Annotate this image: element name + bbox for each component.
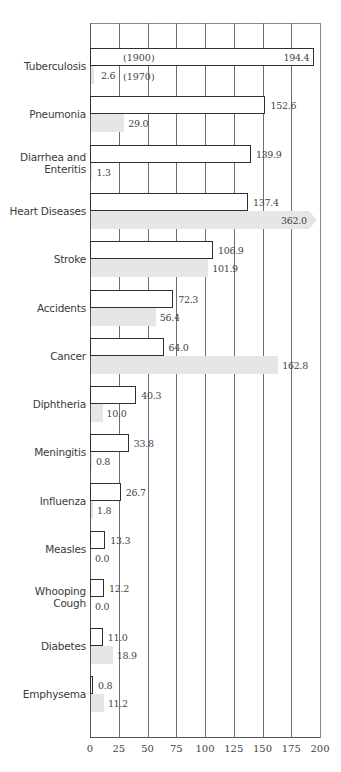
- category-label-line: Influenza: [40, 495, 86, 507]
- bar-1970: [91, 308, 156, 326]
- bar-1970: [91, 452, 92, 470]
- category-label: Diphtheria: [33, 398, 86, 410]
- bar-1900: [90, 193, 248, 211]
- value-label-1970: 18.9: [117, 650, 137, 661]
- value-label-1900: 194.4: [284, 52, 310, 63]
- bar-1900: [90, 483, 121, 501]
- bar-1900: [90, 338, 164, 356]
- legend-1900-label: (1900): [123, 52, 155, 63]
- bar-1970: [91, 501, 93, 519]
- x-tick-label: 100: [195, 743, 214, 754]
- bar-1900: [90, 96, 265, 114]
- bar-1900: [90, 579, 104, 597]
- value-label-1970: 1.8: [97, 505, 111, 516]
- value-label-1900: 72.3: [178, 294, 198, 305]
- bar-1970: [91, 356, 278, 374]
- x-tick-label: 75: [170, 743, 183, 754]
- gridline: [176, 23, 177, 738]
- category-label: Accidents: [37, 302, 86, 314]
- value-label-1900: 33.8: [134, 438, 154, 449]
- category-label-line: Enteritis: [20, 163, 86, 175]
- category-label: Meningitis: [34, 446, 86, 458]
- category-label-line: Pneumonia: [29, 108, 86, 120]
- legend-1970-label: (1970): [123, 71, 155, 82]
- category-label-line: Cough: [35, 597, 86, 609]
- x-tick-label: 150: [253, 743, 272, 754]
- bar-1900: [90, 386, 136, 404]
- value-label-1900: 152.6: [270, 100, 296, 111]
- category-label-line: Heart Diseases: [9, 205, 86, 217]
- gridline: [148, 23, 149, 738]
- category-label-line: Diphtheria: [33, 398, 86, 410]
- value-label-1900: 26.7: [126, 487, 146, 498]
- bar-1900: [90, 145, 251, 163]
- bar-1900: [90, 531, 105, 549]
- category-label-line: Cancer: [50, 350, 86, 362]
- bar-1970: [91, 646, 113, 664]
- bar-chart: 194.42.6152.629.0139.91.3137.4362.0106.9…: [0, 0, 341, 772]
- category-label-line: Measles: [45, 543, 86, 555]
- value-label-1970: 10.0: [107, 408, 127, 419]
- bar-1900: [90, 241, 213, 259]
- category-label: Heart Diseases: [9, 205, 86, 217]
- value-label-1970: 2.6: [101, 70, 115, 81]
- category-label-line: Tuberculosis: [24, 60, 86, 72]
- category-label-line: Whooping: [35, 585, 86, 597]
- bar-1900: [90, 676, 93, 694]
- value-label-1900: 64.0: [169, 342, 189, 353]
- category-label: Emphysema: [23, 688, 86, 700]
- bar-1900: [90, 290, 173, 308]
- gridline: [205, 23, 206, 738]
- value-label-1970: 0.0: [95, 601, 109, 612]
- value-label-1970: 1.3: [96, 167, 110, 178]
- value-label-1970: 29.0: [128, 118, 148, 129]
- category-label-line: Meningitis: [34, 446, 86, 458]
- value-label-1900: 0.8: [98, 680, 112, 691]
- category-label: Measles: [45, 543, 86, 555]
- value-label-1900: 40.3: [141, 390, 161, 401]
- category-label: Diabetes: [41, 640, 86, 652]
- category-label-line: Stroke: [54, 253, 86, 265]
- x-tick-label: 200: [310, 743, 329, 754]
- category-label-line: Accidents: [37, 302, 86, 314]
- value-label-1970: 11.2: [108, 698, 128, 709]
- x-tick-label: 125: [224, 743, 243, 754]
- category-label: Pneumonia: [29, 108, 86, 120]
- value-label-1970: 0.8: [96, 456, 110, 467]
- bar-1970: [91, 404, 103, 422]
- value-label-1900: 12.2: [109, 583, 129, 594]
- gridline: [263, 23, 264, 738]
- value-label-1900: 106.9: [218, 245, 244, 256]
- bar-1970: [91, 163, 92, 181]
- value-label-1900: 137.4: [253, 197, 279, 208]
- category-label: Tuberculosis: [24, 60, 86, 72]
- category-label-line: Diarrhea and: [20, 151, 86, 163]
- bar-1970: [91, 66, 94, 84]
- value-label-1970: 362.0: [281, 215, 307, 226]
- bar-1970: [91, 259, 208, 277]
- gridline: [234, 23, 235, 738]
- bar-1900: [90, 628, 103, 646]
- category-label: WhoopingCough: [35, 585, 86, 609]
- bar-1970: [91, 694, 104, 712]
- bar-1900: [90, 434, 129, 452]
- bar-1970: [91, 114, 124, 132]
- x-tick-label: 25: [112, 743, 125, 754]
- x-tick-label: 175: [282, 743, 301, 754]
- value-label-1970: 0.0: [95, 553, 109, 564]
- value-label-1900: 11.0: [108, 632, 128, 643]
- value-label-1900: 139.9: [256, 149, 282, 160]
- value-label-1970: 162.8: [282, 360, 308, 371]
- category-label: Stroke: [54, 253, 86, 265]
- category-label-line: Diabetes: [41, 640, 86, 652]
- category-label: Influenza: [40, 495, 86, 507]
- category-label-line: Emphysema: [23, 688, 86, 700]
- value-label-1970: 56.4: [160, 312, 180, 323]
- value-label-1970: 101.9: [212, 263, 238, 274]
- category-label: Diarrhea andEnteritis: [20, 151, 86, 175]
- category-label: Cancer: [50, 350, 86, 362]
- gridline: [291, 23, 292, 738]
- x-tick-label: 50: [141, 743, 154, 754]
- value-label-1900: 13.3: [110, 535, 130, 546]
- x-tick-label: 0: [87, 743, 93, 754]
